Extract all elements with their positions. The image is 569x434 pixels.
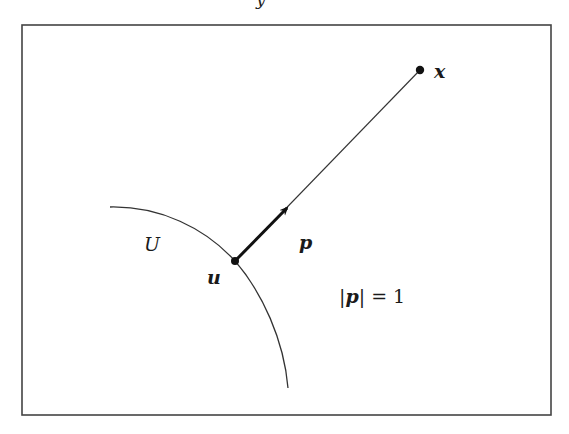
- label-p: p: [299, 231, 313, 253]
- vector-p-arrow: [235, 208, 287, 261]
- label-U: U: [144, 233, 161, 255]
- point-x: [416, 66, 424, 74]
- norm-symbol-p: p: [345, 285, 359, 307]
- figure-frame: [22, 25, 551, 415]
- unit-norm-annotation: |p| = 1: [339, 285, 405, 308]
- point-u: [231, 257, 239, 265]
- label-u: u: [207, 266, 221, 288]
- label-x: x: [433, 60, 446, 82]
- norm-bar-right-equals: | = 1: [359, 285, 406, 308]
- geometry-diagram: U u p x |p| = 1: [0, 0, 569, 434]
